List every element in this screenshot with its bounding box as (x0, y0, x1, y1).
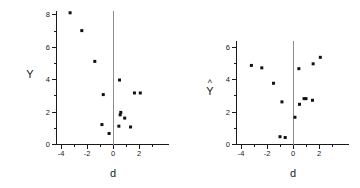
y-tick-label: 6 (46, 43, 50, 52)
y-tick-label: 4 (46, 75, 50, 84)
data-point (311, 99, 314, 102)
plot-canvas-right: -4-2020246dY^ (180, 0, 360, 188)
y-tick-label: 4 (226, 75, 230, 84)
data-point (117, 125, 120, 128)
y-tick-label: 2 (226, 108, 230, 117)
data-point (298, 103, 301, 106)
data-point (102, 93, 105, 96)
x-tick-label: -2 (84, 149, 91, 158)
plot-canvas-left: -4-20202468dY (0, 0, 180, 188)
x-tick-label: 0 (291, 149, 295, 158)
data-point (280, 100, 283, 103)
data-point (69, 11, 72, 14)
data-point (80, 29, 83, 32)
data-point (118, 79, 121, 82)
data-point (293, 116, 296, 119)
x-axis-title: d (110, 167, 116, 179)
y-tick-label: 8 (46, 10, 50, 19)
data-point (312, 62, 315, 65)
panel-observed-y: -4-20202468dY (0, 0, 180, 188)
x-tick-label: 0 (111, 149, 115, 158)
panel-fitted-y: -4-2020246dY^ (180, 0, 360, 188)
data-point (93, 60, 96, 63)
data-point (272, 82, 275, 85)
data-point (305, 97, 308, 100)
data-point (279, 135, 282, 138)
data-point (108, 132, 111, 135)
y-tick-label: 2 (46, 108, 50, 117)
y-tick-label: 6 (226, 43, 230, 52)
data-point (119, 111, 122, 114)
data-point (129, 125, 132, 128)
data-point (260, 66, 263, 69)
data-point (250, 64, 253, 67)
x-axis-title: d (290, 167, 296, 179)
data-point (284, 136, 287, 139)
data-point (139, 91, 142, 94)
data-point (297, 67, 300, 70)
data-point (100, 123, 103, 126)
x-tick-label: 2 (317, 149, 321, 158)
y-axis-title: Y (26, 68, 34, 80)
x-tick-label: -2 (264, 149, 271, 158)
data-point (133, 91, 136, 94)
data-point (319, 56, 322, 59)
x-tick-label: 2 (137, 149, 141, 158)
x-tick-label: -4 (238, 149, 245, 158)
y-tick-label: 0 (226, 140, 230, 149)
y-tick-label: 0 (46, 140, 50, 149)
data-point (123, 117, 126, 120)
x-tick-label: -4 (58, 149, 65, 158)
scatter-plot-figure: -4-20202468dY -4-2020246dY^ (0, 0, 360, 188)
